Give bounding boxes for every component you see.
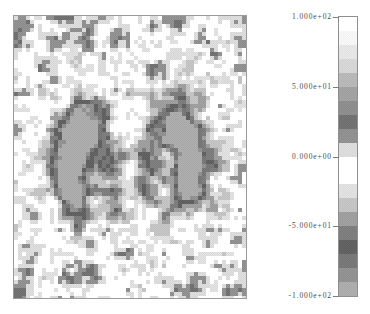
- colorbar: 1.000e+025.000e+010.000e+00-5.000e+01-1.…: [270, 10, 368, 306]
- colorbar-tick-label: -1.000e+02: [289, 292, 332, 300]
- field-raster: [14, 16, 246, 299]
- colorbar-tick: [333, 17, 339, 18]
- colorbar-raster: [339, 17, 357, 296]
- colorbar-tick: [333, 157, 339, 158]
- scalar-field-plot: [13, 15, 247, 299]
- colorbar-tick: [333, 87, 339, 88]
- colorbar-tick: [333, 226, 339, 227]
- colorbar-tick-label: 5.000e+01: [292, 83, 332, 91]
- figure-canvas: 1.000e+025.000e+010.000e+00-5.000e+01-1.…: [0, 0, 370, 314]
- colorbar-tick-label: 1.000e+02: [292, 13, 332, 21]
- colorbar-gradient: [338, 16, 358, 297]
- colorbar-tick-label: -5.000e+01: [289, 222, 332, 230]
- colorbar-tick: [333, 296, 339, 297]
- colorbar-tick-label: 0.000e+00: [292, 153, 332, 161]
